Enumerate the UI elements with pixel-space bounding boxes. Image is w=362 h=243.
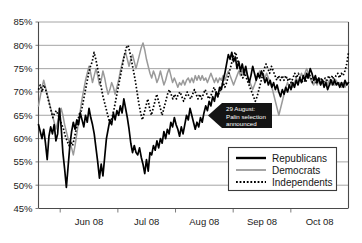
legend-label-independents: Independents: [272, 177, 333, 188]
chart-container: 45%50%55%60%65%70%75%80%85% Jun 08Jul 08…: [0, 0, 362, 243]
polling-line-chart: 45%50%55%60%65%70%75%80%85% Jun 08Jul 08…: [0, 0, 362, 243]
annotation-line-3: announced: [226, 120, 257, 127]
y-tick-label: 85%: [13, 16, 33, 27]
y-tick-label: 75%: [13, 63, 33, 74]
annotation-line-1: 29 August:: [226, 105, 256, 112]
y-tick-label: 80%: [13, 40, 33, 51]
legend-label-democrats: Democrats: [272, 165, 320, 176]
annotation-line-2: Palin selection: [226, 113, 266, 120]
x-tick-label: Aug 08: [189, 216, 219, 227]
y-tick-label: 45%: [13, 203, 33, 214]
legend: Republicans Democrats Independents: [229, 148, 337, 191]
y-axis-tick-labels: 45%50%55%60%65%70%75%80%85%: [13, 16, 33, 214]
x-tick-label: Sep 08: [247, 216, 277, 227]
y-tick-label: 65%: [13, 110, 33, 121]
y-tick-label: 50%: [13, 180, 33, 191]
legend-label-republicans: Republicans: [272, 153, 327, 164]
x-tick-label: Oct 08: [306, 216, 334, 227]
x-tick-label: Jun 08: [75, 216, 104, 227]
y-tick-label: 70%: [13, 86, 33, 97]
x-tick-label: Jul 08: [134, 216, 159, 227]
y-tick-label: 60%: [13, 133, 33, 144]
y-tick-label: 55%: [13, 156, 33, 167]
